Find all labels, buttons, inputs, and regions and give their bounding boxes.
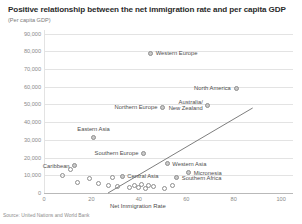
y-axis-tick-label: 80,000 xyxy=(1,48,41,54)
y-axis-tick-label: 10,000 xyxy=(1,172,41,178)
source-note: Source: United Nations and World Bank xyxy=(3,213,89,218)
data-point-southern-europe[interactable] xyxy=(141,151,146,156)
data-point-northern-europe[interactable] xyxy=(160,105,165,110)
data-point-western-europe[interactable] xyxy=(148,51,153,56)
data-point-label: Australia/New Zealand xyxy=(169,99,203,112)
y-axis-tick-label: 40,000 xyxy=(1,119,41,125)
data-point[interactable] xyxy=(96,181,101,186)
x-axis-line xyxy=(44,193,293,194)
data-point-label: Caribbean xyxy=(43,163,70,169)
x-axis-tick-label: 20 xyxy=(76,196,106,202)
data-point-north-america[interactable] xyxy=(234,86,239,91)
x-axis-tick-label: 60 xyxy=(171,196,201,202)
data-point-label: Southern Europe xyxy=(95,150,139,156)
data-point[interactable] xyxy=(87,176,92,181)
data-point-label: Central Asia xyxy=(127,173,158,179)
data-point-central-asia[interactable] xyxy=(120,174,125,179)
data-point[interactable] xyxy=(75,180,80,185)
data-point-label: North America xyxy=(194,85,231,91)
x-axis-tick-label: 100 xyxy=(266,196,296,202)
chart-title: Positive relationship between the net im… xyxy=(8,5,296,15)
chart-subtitle: (Per capita GDP) xyxy=(8,17,51,23)
y-axis-tick-label: 70,000 xyxy=(1,66,41,72)
data-point-label: Western Asia xyxy=(172,161,206,167)
y-axis-tick-label: 50,000 xyxy=(1,101,41,107)
x-axis-title: Net Immigration Rate xyxy=(110,203,166,209)
data-point[interactable] xyxy=(106,183,111,188)
y-axis-tick-label: 90,000 xyxy=(1,31,41,37)
y-axis-tick-label: 30,000 xyxy=(1,137,41,143)
y-axis-tick-label: 20,000 xyxy=(1,155,41,161)
y-axis-tick-label: 60,000 xyxy=(1,84,41,90)
chart-container: Positive relationship between the net im… xyxy=(0,0,302,224)
data-point-label: Southern Africa xyxy=(182,175,222,181)
data-point-label: Eastern Asia xyxy=(77,126,110,132)
x-axis-tick-label: 0 xyxy=(29,196,59,202)
data-point-australia-new-zealand[interactable] xyxy=(205,103,210,108)
data-point-label: Northern Europe xyxy=(115,104,158,110)
x-axis-tick-label: 80 xyxy=(219,196,249,202)
x-axis-tick-label: 40 xyxy=(124,196,154,202)
data-point-label: Western Europe xyxy=(156,50,198,56)
data-point[interactable] xyxy=(170,183,175,188)
